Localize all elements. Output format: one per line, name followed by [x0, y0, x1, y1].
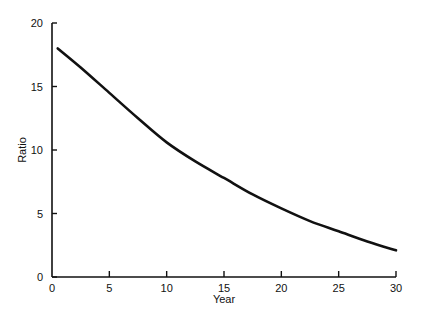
y-tick-label: 10: [31, 144, 43, 156]
axes: 05101520051015202530: [31, 17, 402, 294]
y-tick-label: 15: [31, 81, 43, 93]
x-tick-label: 0: [49, 282, 55, 294]
x-tick-label: 25: [333, 282, 345, 294]
ratio-curve: [58, 48, 396, 250]
x-tick-label: 5: [106, 282, 112, 294]
y-tick-label: 5: [37, 208, 43, 220]
x-axis-label: Year: [213, 293, 236, 305]
x-tick-label: 20: [275, 282, 287, 294]
y-tick-label: 20: [31, 17, 43, 29]
line-chart: 05101520051015202530 Year Ratio: [0, 0, 422, 322]
x-tick-label: 30: [390, 282, 402, 294]
y-axis-label: Ratio: [16, 137, 28, 163]
x-tick-label: 10: [161, 282, 173, 294]
y-tick-label: 0: [37, 271, 43, 283]
